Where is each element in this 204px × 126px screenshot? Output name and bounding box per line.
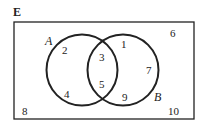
element-8: 8 [22, 105, 28, 117]
element-1: 1 [121, 38, 127, 50]
universal-set-label: E [13, 5, 21, 19]
element-10: 10 [168, 105, 180, 117]
set-a-label: A [44, 34, 53, 48]
set-a-circle [47, 35, 118, 106]
universal-set-rectangle [14, 22, 194, 119]
element-7: 7 [146, 64, 152, 76]
element-6: 6 [170, 27, 176, 39]
element-2: 2 [62, 44, 68, 56]
element-3: 3 [99, 51, 105, 63]
set-b-label: B [154, 90, 162, 104]
element-9: 9 [122, 91, 128, 103]
element-5: 5 [99, 78, 105, 90]
venn-diagram: E A B 2 4 3 5 1 7 9 6 8 10 [0, 0, 204, 126]
element-4: 4 [64, 88, 70, 100]
